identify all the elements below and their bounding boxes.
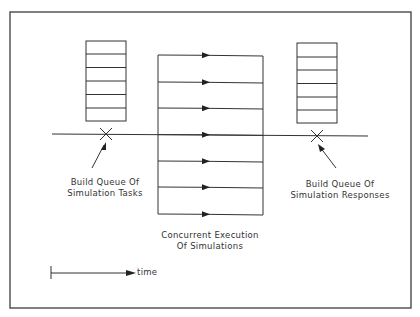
right-queue-label-line2: Simulation Responses bbox=[280, 190, 400, 201]
right-queue-label-line1: Build Queue Of bbox=[280, 179, 400, 190]
left-queue-label-line1: Build Queue Of bbox=[45, 177, 165, 188]
concurrent-execution-label: Concurrent Execution Of Simulations bbox=[150, 230, 270, 252]
time-legend bbox=[51, 266, 136, 279]
pointer-arrow-right-icon bbox=[318, 144, 336, 168]
left-queue-label: Build Queue Of Simulation Tasks bbox=[45, 177, 165, 199]
time-legend-label: time bbox=[137, 267, 157, 278]
right-queue-label: Build Queue Of Simulation Responses bbox=[280, 179, 400, 201]
diagram-frame bbox=[10, 12, 411, 308]
right-queue bbox=[297, 43, 337, 123]
diagram-canvas bbox=[0, 0, 420, 317]
concurrent-label-line2: Of Simulations bbox=[150, 241, 270, 252]
concurrent-label-line1: Concurrent Execution bbox=[150, 230, 270, 241]
left-queue-label-line2: Simulation Tasks bbox=[45, 188, 165, 199]
lane-arrows bbox=[158, 55, 263, 215]
pointer-arrow-left-icon bbox=[92, 142, 106, 168]
left-queue bbox=[86, 41, 126, 121]
concurrent-execution-block bbox=[158, 55, 263, 215]
